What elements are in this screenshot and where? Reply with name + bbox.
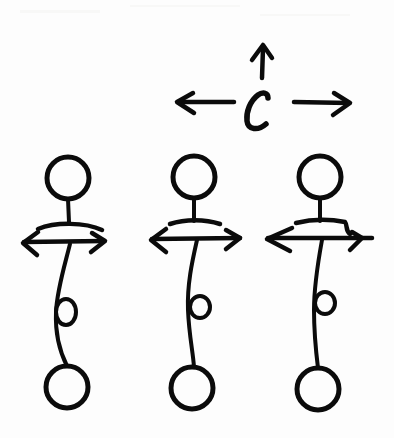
c-letter [247,93,268,129]
figure-middle [151,156,240,409]
top-arc [170,220,220,224]
tail-circle [297,368,339,410]
double-arrow-icon [23,232,105,255]
c-symbol-group: C [0,0,350,129]
loop-circle [190,296,210,318]
figure-right [267,156,372,410]
head-circle [299,156,341,198]
head-circle [47,157,89,199]
right-arrow-icon [294,93,350,115]
loop-circle [56,299,76,325]
neck-line [68,199,69,222]
top-arc [38,224,102,230]
tail-circle [46,366,88,408]
top-arc [296,220,350,234]
head-circle [173,156,215,198]
paper-texture [20,5,350,16]
figure-left [23,157,105,408]
up-arrow-icon [252,45,272,78]
tail-circle [171,367,213,409]
left-arrow-icon [177,93,234,113]
loop-circle [315,292,335,314]
diagram-canvas: C [0,0,394,438]
